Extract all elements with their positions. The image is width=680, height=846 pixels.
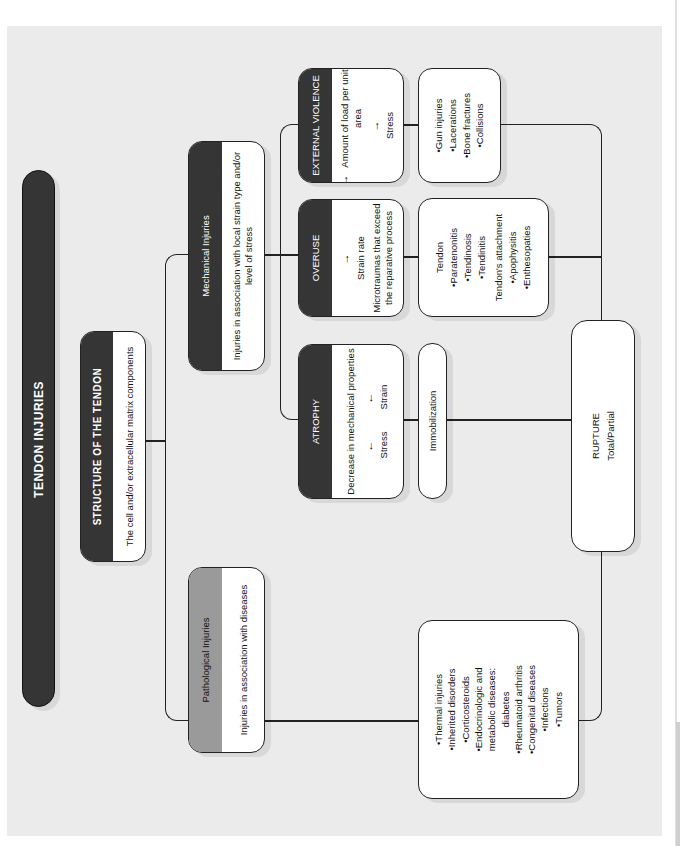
disease-list-item: •Congenital diseases xyxy=(525,665,538,754)
external-list-item: •Lacerations xyxy=(446,99,460,151)
overuse-heading: OVERUSE xyxy=(310,235,321,281)
connector-immobilization-rupture xyxy=(446,419,571,421)
mechanical-description: Injuries in association with local strai… xyxy=(231,148,256,364)
overuse-list-box: Tendon •Paratenonitis •Tendinosis •Tendi… xyxy=(418,198,549,317)
atrophy-line1: Decrease in mechanical properties xyxy=(345,348,357,494)
disease-list-item: •Rheumatoid arthritis xyxy=(512,665,525,753)
external-line1: Amount of load per unit area xyxy=(339,69,364,168)
mechanical-box: Mechanical Injuries Injuries in associat… xyxy=(188,141,265,371)
overuse-list-item: •Enthesopaties xyxy=(520,226,534,290)
overuse-line2: Microtraumas that exceed the reparative … xyxy=(371,200,396,316)
external-list-item: •Bone fractures xyxy=(460,93,474,158)
connector-right-bottom xyxy=(578,551,602,721)
structure-box: STRUCTURE OF THE TENDON The cell and/or … xyxy=(80,331,146,562)
disease-list-item: •Tumors xyxy=(552,692,565,727)
disease-list-item: •Thermal injuries xyxy=(432,674,445,745)
external-list-item: •Gun injuries xyxy=(432,98,446,152)
atrophy-stress: Stress xyxy=(378,431,390,458)
overuse-box: OVERUSE ↑ Strain rate Microtraumas that … xyxy=(298,199,404,317)
up-arrow-icon: ↑ xyxy=(374,118,380,132)
disease-list-item: •Inherited disorders xyxy=(445,669,458,751)
connector-external-list xyxy=(403,124,418,126)
connector-trunk xyxy=(165,254,189,721)
diagram-title: TENDON INJURIES xyxy=(32,381,46,498)
page-edge-shadow xyxy=(676,722,680,846)
overuse-list-group-title: Tendon xyxy=(433,242,447,273)
page-edge xyxy=(675,0,677,846)
connector-atrophy-immobilization xyxy=(403,419,418,421)
mechanical-heading: Mechanical Injuries xyxy=(200,215,211,296)
connector-pathological-list xyxy=(264,720,418,722)
disease-list-item: •Infections xyxy=(538,688,551,732)
external-heading: EXTERNAL VIOLENCE xyxy=(310,75,321,175)
external-list-box: •Gun injuries •Lacerations •Bone fractur… xyxy=(418,68,501,183)
rupture-subtitle: Total/Partial xyxy=(603,411,618,461)
overuse-list-item: •Apophysitis xyxy=(506,232,520,284)
external-stress: Stress xyxy=(384,112,396,139)
overuse-list-item: •Tendinitis xyxy=(475,236,489,279)
external-list-item: •Collisions xyxy=(473,104,487,148)
connector-branch xyxy=(280,124,299,420)
immobilization-box: Immobilization xyxy=(418,343,447,499)
title-bar: TENDON INJURIES xyxy=(22,170,55,707)
atrophy-box: ATROPHY Decrease in mechanical propertie… xyxy=(298,344,404,499)
pathological-box: Pathological Injuries Injuries in associ… xyxy=(188,567,265,753)
disease-list-item: •Corticosteroids xyxy=(459,676,472,743)
down-arrow-icon: ↓ xyxy=(368,438,374,452)
disease-list-item: •Endocrinologic and metabolic diseases: … xyxy=(472,655,512,765)
immobilization-label: Immobilization xyxy=(427,391,438,452)
structure-heading: STRUCTURE OF THE TENDON xyxy=(92,368,103,526)
overuse-list-item: •Paratenonitis xyxy=(447,228,461,287)
down-arrow-icon: ↓ xyxy=(368,390,374,404)
rupture-box: RUPTURE Total/Partial xyxy=(571,320,635,552)
up-arrow-icon: ↑ xyxy=(344,172,350,183)
up-arrow-icon: ↑ xyxy=(345,251,351,265)
pathological-description: Injuries in association with diseases xyxy=(238,585,249,736)
structure-description: The cell and/or extracellular matrix com… xyxy=(124,347,135,547)
rupture-heading: RUPTURE xyxy=(588,413,603,459)
overuse-strain-rate: Strain rate xyxy=(355,236,367,280)
overuse-list-item: •Tendinosis xyxy=(461,233,475,281)
atrophy-strain: Strain xyxy=(378,385,390,410)
external-violence-box: EXTERNAL VIOLENCE ↑ Amount of load per u… xyxy=(298,68,404,183)
disease-list-box: •Thermal injuries •Inherited disorders •… xyxy=(418,620,579,799)
atrophy-heading: ATROPHY xyxy=(310,399,321,444)
connector-structure-trunk xyxy=(145,440,166,442)
connector-overuse-list xyxy=(403,256,418,258)
overuse-list-group-title: Tendon's attachment xyxy=(492,214,506,301)
pathological-heading: Pathological Injuries xyxy=(200,617,211,702)
